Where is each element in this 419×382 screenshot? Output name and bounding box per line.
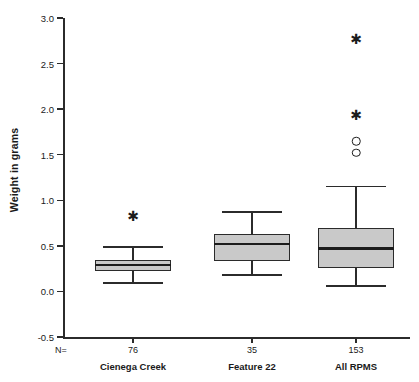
box-iqr [214,234,290,261]
y-tick-label: 3.0 [22,13,54,24]
outlier-extreme-marker: ✱ [350,32,362,46]
y-tick-label: 2.0 [22,104,54,115]
y-tick-mark [57,154,63,155]
x-tick-mark [251,337,252,343]
category-label: All RPMS [335,361,377,372]
y-tick-mark [57,291,63,292]
whisker-stem-lower [251,261,253,275]
whisker-cap-upper [222,211,283,213]
category-label: Cienega Creek [100,361,166,372]
sample-count-label: 76 [128,345,138,355]
whisker-cap-upper [326,186,387,188]
y-tick-mark [57,108,63,109]
whisker-cap-lower [326,285,387,287]
n-equals-label: N= [55,345,67,355]
y-tick-label: -0.5 [22,332,54,343]
y-tick-label: 0.0 [22,286,54,297]
category-label: Feature 22 [228,361,276,372]
sample-count-label: 153 [348,345,363,355]
outlier-marker [352,149,361,158]
x-tick-mark [132,337,133,343]
y-tick-label: 1.0 [22,195,54,206]
outlier-marker [352,137,361,146]
y-tick-mark [57,336,63,337]
whisker-cap-lower [222,274,283,276]
x-axis-line [63,337,410,339]
y-tick-mark [57,63,63,64]
y-tick-mark [57,17,63,18]
x-tick-mark [355,337,356,343]
sample-count-label: 35 [247,345,257,355]
median-line [214,243,290,245]
y-tick-label: 2.5 [22,58,54,69]
y-tick-mark [57,245,63,246]
outlier-extreme-marker: ✱ [350,108,362,122]
boxplot-figure: Weight in grams 3.02.52.01.51.00.50.0-0.… [0,0,419,382]
plot-area: 3.02.52.01.51.00.50.0-0.5 ✱✱✱ N= 76Ciene… [0,0,419,382]
whisker-cap-upper [103,246,164,248]
whisker-stem-upper [355,187,357,228]
whisker-stem-lower [355,268,357,286]
whisker-stem-upper [132,247,134,260]
median-line [318,247,394,249]
y-tick-label: 0.5 [22,240,54,251]
whisker-cap-lower [103,282,164,284]
median-line [95,264,171,266]
y-tick-label: 1.5 [22,149,54,160]
y-axis-line [63,18,65,338]
whisker-stem-upper [251,212,253,234]
outlier-extreme-marker: ✱ [127,209,139,223]
y-tick-mark [57,200,63,201]
